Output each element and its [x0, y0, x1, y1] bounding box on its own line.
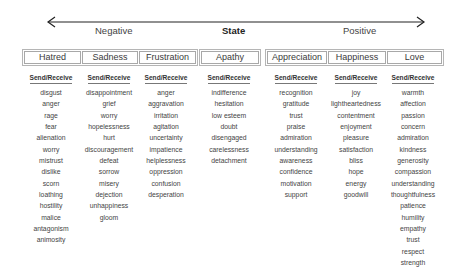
emotion-word: hesitation: [200, 98, 258, 109]
emotion-word: admiration: [266, 132, 326, 143]
emotion-word: impatience: [137, 144, 195, 155]
emotion-word: mistrust: [22, 155, 80, 166]
emotion-word: sorrow: [79, 166, 139, 177]
word-list: disappointmentgriefworryhopelessnesshurt…: [79, 87, 139, 223]
emotion-word: animosity: [22, 234, 80, 245]
emotion-word: disengaged: [200, 132, 258, 143]
emotion-word: alienation: [22, 132, 80, 143]
emotion-word: fear: [22, 121, 80, 132]
column-header: Send/Receive: [88, 74, 131, 84]
column-apathy: Send/Receive indifferencehesitationlow e…: [200, 66, 258, 166]
emotion-word: aggravation: [137, 98, 195, 109]
emotion-word: bliss: [326, 155, 386, 166]
emotion-word: concern: [383, 121, 443, 132]
emotion-word: uncertainty: [137, 132, 195, 143]
column-frustration: Send/Receive angeraggravationirritationa…: [137, 66, 195, 200]
emotion-word: kindness: [383, 144, 443, 155]
emotion-word: understanding: [383, 178, 443, 189]
emotion-word: understanding: [266, 144, 326, 155]
column-header: Send/Receive: [275, 74, 318, 84]
emotion-word: misery: [79, 178, 139, 189]
word-list: indifferencehesitationlow esteemdoubtdis…: [200, 87, 258, 166]
emotion-word: praise: [266, 121, 326, 132]
column-sadness: Send/Receive disappointmentgriefworryhop…: [79, 66, 139, 223]
positive-label: Positive: [343, 25, 376, 36]
emotion-word: humility: [383, 212, 443, 223]
word-list: warmthaffectionpassionconcernadmirationk…: [383, 87, 443, 269]
emotion-word: joy: [326, 87, 386, 98]
emotion-word: hopelessness: [79, 121, 139, 132]
state-box-hatred: Hatred: [24, 51, 81, 64]
emotion-word: admiration: [383, 132, 443, 143]
column-header: Send/Receive: [392, 74, 435, 84]
emotion-word: confidence: [266, 166, 326, 177]
emotion-word: respect: [383, 246, 443, 257]
emotion-word: discouragement: [79, 144, 139, 155]
word-list: joylightheartednesscontentmentenjoymentp…: [326, 87, 386, 200]
emotion-word: helplessness: [137, 155, 195, 166]
state-box-apathy: Apathy: [201, 51, 259, 64]
emotion-word: goodwill: [326, 189, 386, 200]
emotion-word: low esteem: [200, 110, 258, 121]
state-box-frustration: Frustration: [139, 51, 196, 64]
emotion-word: disappointment: [79, 87, 139, 98]
emotion-word: irritation: [137, 110, 195, 121]
emotion-word: awareness: [266, 155, 326, 166]
emotion-word: pleasure: [326, 132, 386, 143]
emotion-word: malice: [22, 212, 80, 223]
emotion-word: satisfaction: [326, 144, 386, 155]
emotion-word: scorn: [22, 178, 80, 189]
state-box-appreciation: Appreciation: [267, 51, 327, 64]
emotion-word: thoughtfulness: [383, 189, 443, 200]
emotion-word: hostility: [22, 200, 80, 211]
state-box-happiness: Happiness: [328, 51, 386, 64]
state-axis-title: State: [222, 25, 245, 36]
column-love: Send/Receive warmthaffectionpassionconce…: [383, 66, 443, 269]
emotion-word: hope: [326, 166, 386, 177]
emotion-word: anger: [137, 87, 195, 98]
column-header: Send/Receive: [145, 74, 188, 84]
emotion-word: antagonism: [22, 223, 80, 234]
emotion-word: gloom: [79, 212, 139, 223]
emotion-word: generosity: [383, 155, 443, 166]
emotion-word: dejection: [79, 189, 139, 200]
emotion-word: confusion: [137, 178, 195, 189]
column-happiness: Send/Receive joylightheartednesscontentm…: [326, 66, 386, 200]
emotion-word: worry: [79, 110, 139, 121]
emotion-word: patience: [383, 200, 443, 211]
emotion-word: unhappiness: [79, 200, 139, 211]
emotion-word: recognition: [266, 87, 326, 98]
emotion-word: loathing: [22, 189, 80, 200]
emotion-word: motivation: [266, 178, 326, 189]
emotion-word: grief: [79, 98, 139, 109]
column-header: Send/Receive: [30, 74, 73, 84]
negative-label: Negative: [95, 25, 133, 36]
emotion-word: enjoyment: [326, 121, 386, 132]
emotion-word: carelessness: [200, 144, 258, 155]
emotion-word: empathy: [383, 223, 443, 234]
emotion-word: desperation: [137, 189, 195, 200]
emotion-word: indifference: [200, 87, 258, 98]
emotion-word: affection: [383, 98, 443, 109]
emotion-word: lightheartedness: [326, 98, 386, 109]
word-list: disgustangerragefearalienationworrymistr…: [22, 87, 80, 246]
emotion-word: compassion: [383, 166, 443, 177]
word-list: angeraggravationirritationagitationuncer…: [137, 87, 195, 200]
column-header: Send/Receive: [335, 74, 378, 84]
emotion-word: hurt: [79, 132, 139, 143]
emotion-word: agitation: [137, 121, 195, 132]
emotion-word: dislike: [22, 166, 80, 177]
emotion-word: trust: [383, 234, 443, 245]
emotion-word: detachment: [200, 155, 258, 166]
emotion-word: worry: [22, 144, 80, 155]
state-box-sadness: Sadness: [82, 51, 138, 64]
emotion-word: anger: [22, 98, 80, 109]
emotion-word: defeat: [79, 155, 139, 166]
emotion-word: gratitude: [266, 98, 326, 109]
emotion-word: contentment: [326, 110, 386, 121]
emotion-word: strength: [383, 257, 443, 268]
emotion-word: energy: [326, 178, 386, 189]
word-list: recognitiongratitudetrustpraiseadmiratio…: [266, 87, 326, 200]
emotion-word: support: [266, 189, 326, 200]
column-hatred: Send/Receive disgustangerragefearalienat…: [22, 66, 80, 246]
